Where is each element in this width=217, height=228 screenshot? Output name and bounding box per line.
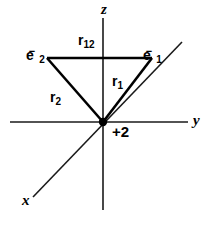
two-electron-atom-diagram: z y x r12 r1 r2 e−1 e−2 +2 [0,0,217,228]
r1-vector-line [103,58,152,122]
electron-2-subscript: 2 [39,54,45,65]
z-axis-label: z [101,2,107,17]
nucleus-charge-label: +2 [112,124,129,139]
r12-subscript: 12 [83,39,94,50]
electron-2-label: e−2 [26,48,46,62]
x-axis-line [33,42,182,197]
y-axis-label: y [193,113,200,128]
r1-subscript: 1 [117,80,123,91]
r1-label: r1 [112,74,123,88]
electron-1-charge-superscript: − [146,45,152,57]
r2-label: r2 [50,90,61,104]
x-axis-label: x [22,193,30,208]
nucleus-dot [99,118,107,126]
diagram-canvas [0,0,217,228]
electron-1-subscript: 1 [156,54,162,65]
r12-label: r12 [78,33,95,47]
r2-subscript: 2 [55,96,61,107]
electron-1-label: e−1 [143,48,163,62]
electron-2-charge-superscript: − [29,45,35,57]
